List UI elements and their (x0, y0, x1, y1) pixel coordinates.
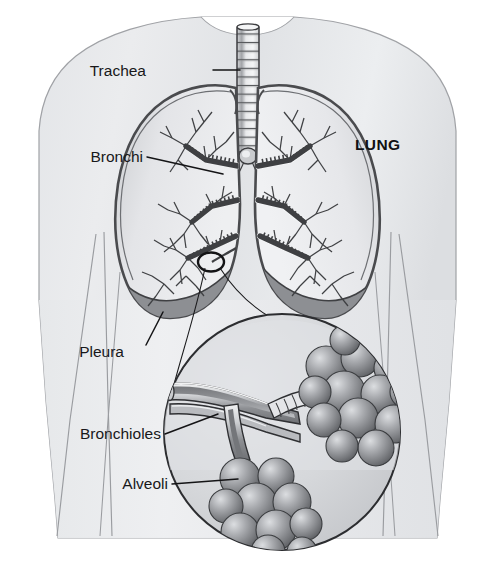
label-bronchi: Bronchi (90, 148, 143, 165)
label-lung: LUNG (355, 136, 401, 153)
carina-highlight (242, 151, 250, 158)
alveolus (358, 430, 394, 466)
alveolus (290, 508, 322, 540)
diagram-canvas: Trachea Bronchi LUNG Pleura Bronchioles … (0, 0, 495, 568)
label-pleura: Pleura (79, 343, 124, 360)
alveolus (251, 535, 285, 568)
label-trachea: Trachea (90, 62, 147, 79)
respiratory-system-figure: Trachea Bronchi LUNG Pleura Bronchioles … (0, 0, 495, 568)
trachea-open-top (237, 24, 259, 30)
alveolus (287, 537, 317, 567)
alveolus (326, 430, 358, 462)
label-bronchioles: Bronchioles (80, 425, 161, 442)
label-alveoli: Alveoli (122, 475, 168, 492)
